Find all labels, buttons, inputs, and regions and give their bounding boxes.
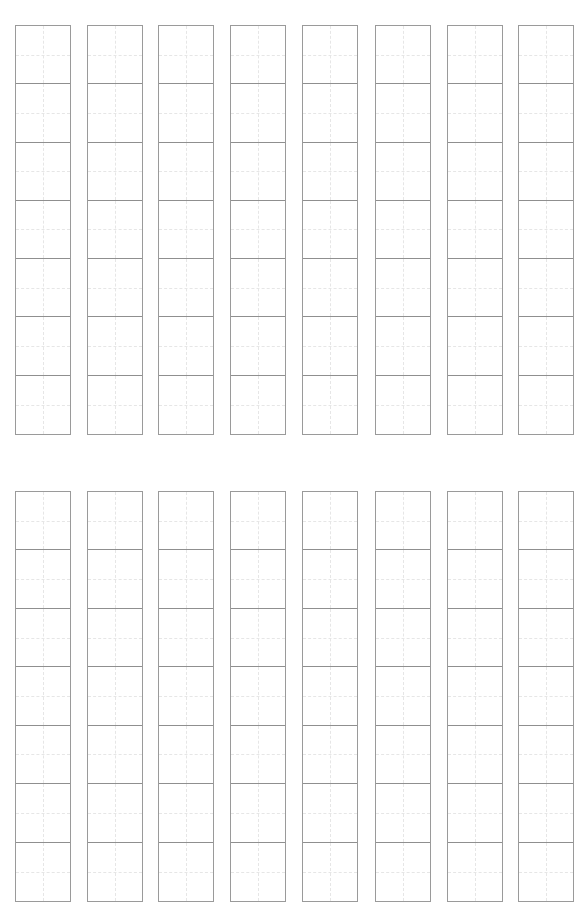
guide-line-horizontal: [303, 346, 357, 347]
guide-line-horizontal: [88, 171, 142, 172]
guide-line-horizontal: [231, 171, 285, 172]
guide-line-horizontal: [231, 229, 285, 230]
grid-cell: [159, 26, 213, 84]
guide-line-horizontal: [303, 288, 357, 289]
guide-line-horizontal: [448, 113, 502, 114]
guide-line-horizontal: [16, 872, 70, 873]
guide-line-horizontal: [303, 521, 357, 522]
grid-cell: [231, 201, 285, 259]
guide-line-horizontal: [231, 579, 285, 580]
guide-line-horizontal: [88, 696, 142, 697]
grid-cell: [448, 84, 502, 142]
grid-cell: [88, 259, 142, 317]
grid-cell: [519, 784, 573, 842]
grid-cell: [303, 201, 357, 259]
guide-line-horizontal: [519, 405, 573, 406]
grid-cell: [519, 667, 573, 725]
grid-cell: [88, 609, 142, 667]
grid-cell: [16, 201, 70, 259]
grid-cell: [519, 84, 573, 142]
guide-line-horizontal: [519, 346, 573, 347]
grid-cell: [303, 26, 357, 84]
guide-line-horizontal: [159, 55, 213, 56]
guide-line-horizontal: [88, 813, 142, 814]
grid-cell: [159, 667, 213, 725]
guide-line-horizontal: [519, 229, 573, 230]
guide-line-horizontal: [16, 405, 70, 406]
grid-column: [447, 491, 503, 902]
guide-line-horizontal: [159, 813, 213, 814]
grid-cell: [448, 317, 502, 375]
grid-cell: [448, 259, 502, 317]
guide-line-horizontal: [88, 405, 142, 406]
grid-cell: [88, 667, 142, 725]
guide-line-horizontal: [519, 171, 573, 172]
grid-cell: [519, 609, 573, 667]
guide-line-horizontal: [16, 638, 70, 639]
grid-cell: [88, 201, 142, 259]
grid-cell: [448, 492, 502, 550]
guide-line-horizontal: [376, 872, 430, 873]
guide-line-horizontal: [376, 171, 430, 172]
guide-line-horizontal: [303, 113, 357, 114]
grid-cell: [303, 726, 357, 784]
guide-line-horizontal: [448, 872, 502, 873]
guide-line-horizontal: [88, 579, 142, 580]
grid-cell: [88, 726, 142, 784]
guide-line-horizontal: [448, 171, 502, 172]
guide-line-horizontal: [303, 171, 357, 172]
guide-line-horizontal: [448, 346, 502, 347]
grid-cell: [88, 84, 142, 142]
guide-line-horizontal: [16, 113, 70, 114]
grid-cell: [448, 201, 502, 259]
grid-cell: [16, 667, 70, 725]
guide-line-horizontal: [231, 113, 285, 114]
grid-cell: [231, 492, 285, 550]
guide-line-horizontal: [16, 521, 70, 522]
guide-line-horizontal: [376, 813, 430, 814]
grid-cell: [519, 143, 573, 201]
guide-line-horizontal: [88, 55, 142, 56]
guide-line-horizontal: [231, 405, 285, 406]
grid-cell: [376, 84, 430, 142]
guide-line-horizontal: [159, 696, 213, 697]
guide-line-horizontal: [88, 521, 142, 522]
guide-line-horizontal: [88, 872, 142, 873]
grid-cell: [448, 667, 502, 725]
grid-cell: [519, 376, 573, 434]
grid-cell: [448, 143, 502, 201]
guide-line-horizontal: [231, 55, 285, 56]
guide-line-horizontal: [376, 696, 430, 697]
grid-cell: [159, 201, 213, 259]
guide-line-horizontal: [16, 55, 70, 56]
grid-cell: [448, 376, 502, 434]
grid-cell: [16, 843, 70, 901]
guide-line-horizontal: [16, 346, 70, 347]
guide-line-horizontal: [303, 754, 357, 755]
guide-line-horizontal: [159, 872, 213, 873]
grid-cell: [88, 143, 142, 201]
guide-line-horizontal: [16, 696, 70, 697]
grid-cell: [16, 609, 70, 667]
grid-cell: [16, 784, 70, 842]
grid-cell: [159, 143, 213, 201]
guide-line-horizontal: [448, 521, 502, 522]
grid-cell: [376, 843, 430, 901]
grid-column: [87, 491, 143, 902]
grid-cell: [231, 26, 285, 84]
grid-cell: [448, 609, 502, 667]
grid-cell: [88, 492, 142, 550]
guide-line-horizontal: [88, 229, 142, 230]
guide-line-horizontal: [16, 813, 70, 814]
guide-line-horizontal: [519, 113, 573, 114]
guide-line-horizontal: [231, 696, 285, 697]
guide-line-horizontal: [519, 754, 573, 755]
guide-line-horizontal: [231, 521, 285, 522]
guide-line-horizontal: [376, 405, 430, 406]
grid-cell: [16, 84, 70, 142]
grid-cell: [376, 784, 430, 842]
guide-line-horizontal: [159, 579, 213, 580]
grid-column: [447, 25, 503, 435]
grid-cell: [519, 492, 573, 550]
grid-cell: [519, 259, 573, 317]
